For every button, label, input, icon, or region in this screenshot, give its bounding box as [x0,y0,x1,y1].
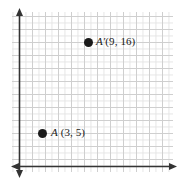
point-marker-a-prime [84,38,93,47]
point-label-a: A (3, 5) [51,126,85,138]
axes [0,0,187,184]
point-label-a-prime-coords: (9, 16) [105,35,135,47]
y-axis-top-arrow-icon [16,8,23,16]
point-label-a-prime: A′(9, 16) [96,35,135,47]
y-axis-bottom-arrow-icon [16,170,23,178]
point-marker-a [38,129,47,138]
x-axis-right-arrow-icon [169,163,177,170]
coordinate-grid-figure: A (3, 5) A′(9, 16) [0,0,187,184]
point-label-a-name: A [51,126,58,138]
point-label-a-prime-name: A [96,35,103,47]
x-axis-left-arrow-icon [11,163,19,170]
point-label-a-coords: (3, 5) [58,126,85,138]
